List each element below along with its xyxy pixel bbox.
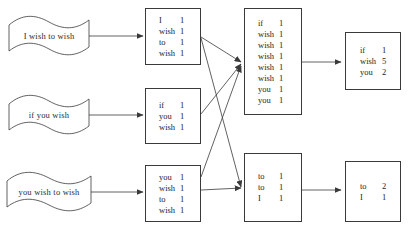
input-document-doc2[interactable]: if you wish [8, 96, 90, 134]
row-key: wish [245, 51, 279, 62]
reduce-output-box-reduce1[interactable]: if 1 wish 5 you 2 [345, 32, 401, 90]
key-value-row: wish 1 [146, 48, 200, 59]
row-value: 1 [180, 26, 206, 37]
row-key: if [245, 18, 279, 29]
row-value: 1 [279, 73, 305, 84]
key-value-row: I 1 [346, 192, 400, 203]
key-value-row: you 1 [146, 172, 200, 183]
row-value: 1 [279, 193, 305, 204]
edge-map2-to-shuffle1 [201, 64, 241, 114]
row-key: wish [245, 73, 279, 84]
key-value-row: you 2 [346, 67, 400, 78]
row-key: to [245, 171, 279, 182]
row-value: 1 [180, 183, 206, 194]
document-shape-icon [6, 173, 92, 211]
row-value: 2 [382, 67, 404, 78]
input-document-doc1[interactable]: I wish to wish [8, 17, 90, 55]
row-value: 1 [279, 171, 305, 182]
row-value: 1 [279, 51, 305, 62]
key-value-row: wish 1 [146, 205, 200, 216]
row-key: wish [146, 205, 180, 216]
shuffle-box-shuffle2[interactable]: to 1 to 1 I 1 [244, 153, 302, 222]
edge-map3-to-shuffle2 [201, 188, 241, 190]
row-value: 1 [180, 48, 206, 59]
key-value-row: wish 1 [146, 26, 200, 37]
map-output-box-map2[interactable]: if 1 you 1 wish 1 [145, 88, 201, 144]
key-value-row: to 1 [245, 182, 301, 193]
row-value: 1 [279, 29, 305, 40]
input-document-doc3[interactable]: you wish to wish [6, 173, 92, 211]
row-key: wish [346, 56, 382, 67]
edge-map1-to-shuffle1 [201, 37, 241, 62]
row-key: you [346, 67, 382, 78]
key-value-row: wish 1 [146, 122, 200, 133]
row-key: wish [245, 40, 279, 51]
row-key: I [346, 192, 382, 203]
row-value: 1 [180, 111, 206, 122]
row-value: 1 [382, 45, 404, 56]
row-key: wish [146, 122, 180, 133]
row-value: 2 [382, 181, 404, 192]
row-key: to [146, 194, 180, 205]
row-value: 1 [180, 122, 206, 133]
map-output-box-map1[interactable]: I 1 wish 1 to 1 wish 1 [145, 8, 201, 65]
key-value-row: to 1 [245, 171, 301, 182]
edge-map1-to-shuffle2 [201, 38, 241, 187]
row-value: 1 [279, 62, 305, 73]
row-key: if [146, 100, 180, 111]
key-value-row: if 1 [346, 45, 400, 56]
row-value: 1 [180, 205, 206, 216]
key-value-row: to 2 [346, 181, 400, 192]
row-value: 1 [279, 40, 305, 51]
document-shape-icon [8, 96, 90, 134]
row-value: 1 [180, 194, 206, 205]
row-value: 1 [279, 182, 305, 193]
row-value: 1 [279, 18, 305, 29]
row-key: to [146, 37, 180, 48]
row-key: I [146, 15, 180, 26]
key-value-row: you 1 [245, 84, 301, 95]
row-key: to [346, 181, 382, 192]
row-value: 1 [180, 100, 206, 111]
edge-map3-to-shuffle1 [201, 66, 241, 177]
key-value-row: wish 1 [146, 183, 200, 194]
diagram-canvas: I wish to wish if you wish you wish to w… [0, 0, 409, 227]
row-key: you [245, 95, 279, 106]
key-value-row: wish 1 [245, 40, 301, 51]
row-key: you [146, 111, 180, 122]
key-value-row: you 1 [245, 95, 301, 106]
key-value-row: wish 5 [346, 56, 400, 67]
key-value-row: wish 1 [245, 29, 301, 40]
row-key: you [146, 172, 180, 183]
row-key: you [245, 84, 279, 95]
key-value-row: wish 1 [245, 62, 301, 73]
key-value-row: if 1 [245, 18, 301, 29]
map-output-box-map3[interactable]: you 1 wish 1 to 1 wish 1 [145, 165, 201, 222]
key-value-row: to 1 [146, 194, 200, 205]
row-key: I [245, 193, 279, 204]
row-value: 1 [279, 95, 305, 106]
shuffle-box-shuffle1[interactable]: if 1 wish 1 wish 1 wish 1 wish 1 wish 1 … [244, 8, 302, 115]
key-value-row: you 1 [146, 111, 200, 122]
row-key: if [346, 45, 382, 56]
key-value-row: if 1 [146, 100, 200, 111]
row-key: wish [146, 48, 180, 59]
document-shape-icon [8, 17, 90, 55]
row-key: to [245, 182, 279, 193]
key-value-row: wish 1 [245, 73, 301, 84]
row-key: wish [245, 29, 279, 40]
row-value: 1 [180, 37, 206, 48]
row-key: wish [146, 26, 180, 37]
row-value: 1 [180, 172, 206, 183]
key-value-row: I 1 [146, 15, 200, 26]
row-key: wish [146, 183, 180, 194]
row-value: 1 [180, 15, 206, 26]
key-value-row: I 1 [245, 193, 301, 204]
key-value-row: wish 1 [245, 51, 301, 62]
row-value: 1 [279, 84, 305, 95]
row-value: 1 [382, 192, 404, 203]
row-value: 5 [382, 56, 404, 67]
row-key: wish [245, 62, 279, 73]
reduce-output-box-reduce2[interactable]: to 2 I 1 [345, 161, 401, 222]
key-value-row: to 1 [146, 37, 200, 48]
